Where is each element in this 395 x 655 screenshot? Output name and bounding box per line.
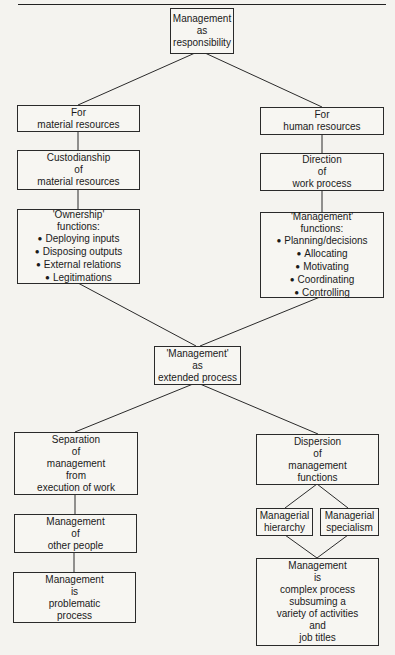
- box-text: functions: [297, 472, 337, 484]
- box-text: Management: [173, 13, 231, 25]
- box-text: of: [313, 448, 321, 460]
- box-managerial-specialism: Managerial specialism: [320, 508, 379, 536]
- bullet-item: Disposing outputs: [35, 246, 122, 259]
- bullet-item: Deploying inputs: [38, 233, 120, 246]
- box-text: responsibility: [173, 37, 231, 49]
- box-text: complex process: [280, 584, 355, 596]
- box-text: Direction: [302, 154, 341, 166]
- box-text: problematic: [49, 598, 101, 610]
- box-management-extended-process: 'Management' as extended process: [154, 346, 241, 385]
- box-management-functions: 'Management' functions: Planning/decisio…: [260, 212, 384, 298]
- box-direction-work-process: Direction of work process: [260, 153, 384, 191]
- box-text: human resources: [283, 121, 360, 133]
- box-managerial-hierarchy: Managerial hierarchy: [256, 508, 313, 536]
- box-text: as: [192, 360, 203, 372]
- box-text: execution of work: [37, 482, 115, 494]
- box-for-human-resources: For human resources: [260, 107, 384, 135]
- box-management-other-people: Management of other people: [14, 514, 137, 553]
- box-text: 'Management': [166, 348, 228, 360]
- box-text: other people: [48, 540, 104, 552]
- box-dispersion-of-functions: Dispersion of management functions: [256, 434, 379, 485]
- box-text: process: [57, 610, 92, 622]
- box-text: For: [315, 109, 330, 121]
- box-text: variety of activities: [277, 608, 359, 620]
- box-text: Managerial: [260, 510, 309, 522]
- box-text: 'Management': [291, 211, 353, 223]
- box-text: management: [288, 460, 346, 472]
- bullet-item: Coordinating: [290, 274, 355, 287]
- box-text: subsuming a: [289, 596, 346, 608]
- box-text: Custodianship: [47, 152, 110, 164]
- box-text: Separation: [52, 434, 100, 446]
- box-text: extended process: [158, 372, 237, 384]
- box-text: is: [314, 572, 321, 584]
- bullet-item: Allocating: [296, 248, 347, 261]
- bullet-item: Planning/decisions: [276, 235, 367, 248]
- box-text: of: [71, 528, 79, 540]
- box-text: Managerial: [325, 510, 374, 522]
- box-text: from: [66, 470, 86, 482]
- box-text: and: [309, 620, 326, 632]
- box-text: job titles: [299, 632, 336, 644]
- bullet-item: Motivating: [295, 261, 348, 274]
- box-text: Management: [46, 516, 104, 528]
- box-text: Management: [45, 574, 103, 586]
- box-text: of: [72, 446, 80, 458]
- box-text: specialism: [326, 522, 373, 534]
- box-text: of: [74, 164, 82, 176]
- box-text: functions:: [301, 223, 344, 235]
- box-text: material resources: [37, 119, 119, 131]
- connector-lines: [0, 0, 395, 655]
- box-text: Dispersion: [294, 436, 341, 448]
- box-text: work process: [293, 178, 352, 190]
- box-custodianship: Custodianship of material resources: [17, 150, 140, 190]
- bullet-item: Legitimations: [45, 272, 112, 285]
- box-text: as: [197, 25, 208, 37]
- box-text: 'Ownership': [53, 209, 105, 221]
- box-text: hierarchy: [264, 522, 305, 534]
- box-ownership-functions: 'Ownership' functions: Deploying inputs …: [17, 209, 140, 284]
- box-management-problematic: Management is problematic process: [13, 572, 136, 623]
- box-management-complex-process: Management is complex process subsuming …: [256, 558, 379, 646]
- box-for-material-resources: For material resources: [17, 105, 140, 132]
- box-text: management: [47, 458, 105, 470]
- box-text: Management: [288, 560, 346, 572]
- box-text: For: [71, 107, 86, 119]
- box-management-as-responsibility: Management as responsibility: [170, 8, 234, 54]
- box-text: functions:: [57, 221, 100, 233]
- box-text: is: [71, 586, 78, 598]
- bullet-item: Controlling: [294, 287, 350, 300]
- box-separation-of-management: Separation of management from execution …: [14, 432, 138, 495]
- box-text: material resources: [37, 176, 119, 188]
- box-text: of: [318, 166, 326, 178]
- bullet-item: External relations: [36, 259, 121, 272]
